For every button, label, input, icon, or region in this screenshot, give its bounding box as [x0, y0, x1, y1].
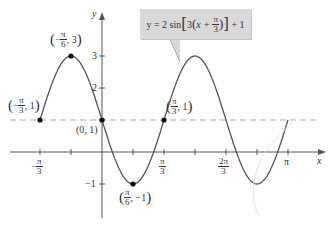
key-point-dot: [99, 117, 104, 122]
x-tick-label-pi-3: π3: [159, 157, 166, 176]
equation-callout: y = 2 sin [ 3 ( x + π3 ) ] + 1: [140, 9, 251, 39]
x-tick-label-neg-pi-3: − π3: [31, 157, 43, 176]
y-tick-label-neg1: −1: [85, 179, 96, 189]
annotation-max-neg-pi-6: (−π6, 3): [50, 30, 82, 49]
annotation-neg-pi-3: (−π3, 1): [8, 96, 40, 115]
y-axis-arrow-icon: [99, 12, 105, 20]
key-point-dot: [68, 53, 73, 58]
key-point-dot: [130, 181, 135, 186]
annotation-origin-point: (0, 1): [76, 125, 98, 135]
key-point-dot: [161, 117, 166, 122]
y-axis-label: y: [92, 9, 96, 19]
pencil-mark: [253, 118, 296, 215]
y-tick-label-2: 2: [92, 83, 97, 93]
key-point-dot: [37, 117, 42, 122]
x-tick-label-2pi-3: 2π3: [218, 157, 229, 176]
y-tick-label-3: 3: [92, 51, 97, 61]
annotation-pi-3: (π3, 1): [166, 97, 193, 116]
annotation-min-pi-6: (π6, −1): [119, 188, 151, 207]
x-axis-label: x: [317, 156, 321, 166]
equation-text: y = 2 sin [ 3 ( x + π3 ) ] + 1: [146, 14, 244, 34]
x-tick-label-pi: π: [284, 157, 289, 167]
